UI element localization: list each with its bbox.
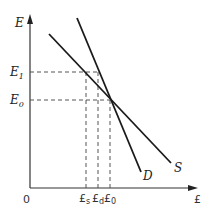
e1-label: E1 — [9, 65, 24, 81]
x-axis-label: £ — [194, 193, 201, 206]
pound-d-label: £d — [92, 192, 104, 206]
pound-0-label: £0 — [104, 192, 116, 206]
demand-curve — [77, 18, 141, 172]
y-axis-arrow-icon — [27, 14, 33, 24]
supply-label: S — [174, 161, 182, 175]
y-axis-label: E — [14, 16, 24, 30]
x-axis-arrow-icon — [188, 185, 198, 191]
diagram-canvas: E £ 0 E1 E0 £s £d £0 S D — [0, 0, 209, 212]
pound-s-label: £s — [79, 192, 90, 206]
guide-lines — [30, 72, 110, 188]
e0-label: E0 — [9, 93, 24, 109]
demand-label: D — [142, 169, 153, 183]
origin-label: 0 — [23, 193, 30, 206]
